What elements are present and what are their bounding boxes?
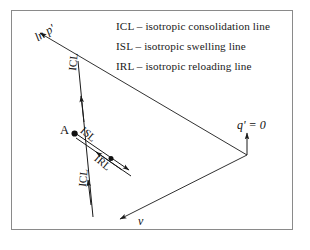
figure-container: ICL – isotropic consolidation line ISL –…	[0, 0, 310, 250]
legend-item-isl: ISL – isotropic swelling line	[116, 36, 294, 56]
point-a-marker	[72, 130, 78, 136]
icl-label-top: ICL	[66, 52, 80, 71]
axis-label-nu: ν	[138, 214, 143, 229]
legend: ICL – isotropic consolidation line ISL –…	[116, 16, 294, 76]
axis-nu-line	[120, 155, 247, 219]
legend-item-icl: ICL – isotropic consolidation line	[116, 16, 294, 36]
icl-arrow-upper	[81, 96, 84, 122]
axis-label-q: qʹ = 0	[237, 118, 266, 133]
icl-label-bottom: ICL	[76, 168, 90, 187]
legend-item-irl: IRL – isotropic reloading line	[116, 56, 294, 76]
point-a-label: A	[60, 123, 69, 138]
